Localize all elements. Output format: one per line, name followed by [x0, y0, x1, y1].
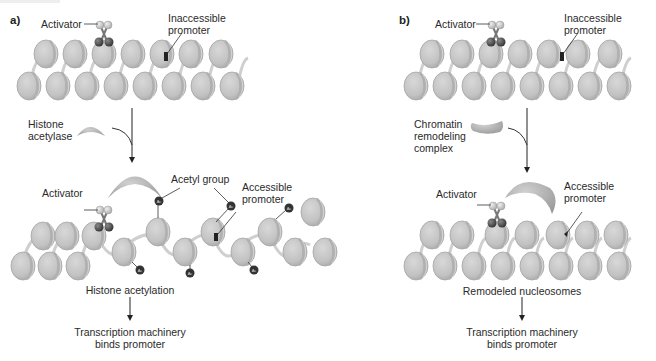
label-line: Chromatin — [414, 118, 466, 130]
panel-a-label: a) — [10, 14, 20, 26]
panel-a-enzyme-label: Histone acetylase — [28, 118, 72, 142]
label-line: Transcription machinery — [50, 326, 210, 338]
label-line: Histone — [28, 118, 72, 130]
cropped-header-strip — [0, 0, 60, 3]
panel-b-enzyme-label: Chromatin remodeling complex — [414, 118, 466, 154]
panel-a-accessible-promoter-label: Accessible promoter — [242, 181, 292, 205]
diagram-artwork: Ac — [0, 0, 656, 361]
panel-a-top-activator-label: Activator — [41, 18, 82, 30]
panel-b-top-activator-label: Activator — [435, 18, 476, 30]
label-line: Accessible — [242, 181, 292, 193]
histone-acetylation-label: Histone acetylation — [60, 284, 200, 296]
panel-b-label: b) — [399, 14, 410, 26]
acetyl-group-label: Acetyl group — [171, 173, 229, 185]
label-line: complex — [414, 142, 466, 154]
label-line: promoter — [564, 192, 614, 204]
label-line: acetylase — [28, 130, 72, 142]
panel-b-accessible-promoter-label: Accessible promoter — [564, 180, 614, 204]
panel-b-bottom-activator-label: Activator — [436, 188, 477, 200]
remodeled-nucleosomes-label: Remodeled nucleosomes — [452, 285, 592, 297]
label-line: Accessible — [564, 180, 614, 192]
panel-a-bottom-activator-label: Activator — [42, 187, 83, 199]
panel-a-top-inaccessible-promoter-label: Inaccessible promoter — [168, 12, 226, 36]
label-line: binds promoter — [442, 338, 602, 350]
label-line: remodeling — [414, 130, 466, 142]
label-line: promoter — [564, 24, 622, 36]
label-line: binds promoter — [50, 338, 210, 350]
label-line: Inaccessible — [564, 12, 622, 24]
label-line: Inaccessible — [168, 12, 226, 24]
panel-a-outcome-label: Transcription machinery binds promoter — [50, 326, 210, 350]
panel-b-top-inaccessible-promoter-label: Inaccessible promoter — [564, 12, 622, 36]
label-line: Transcription machinery — [442, 326, 602, 338]
label-line: promoter — [242, 193, 292, 205]
label-line: promoter — [168, 24, 226, 36]
panel-b-outcome-label: Transcription machinery binds promoter — [442, 326, 602, 350]
